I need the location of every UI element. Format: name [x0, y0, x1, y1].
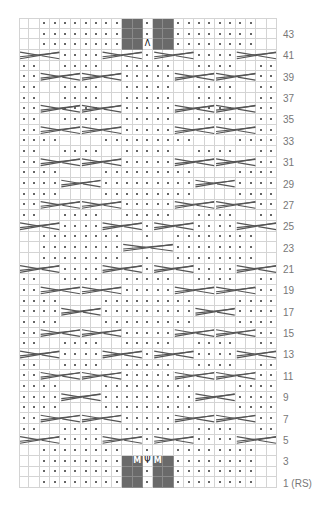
purl-dot-icon	[167, 139, 169, 141]
knit-cell	[60, 71, 70, 82]
knit-cell	[246, 146, 256, 157]
knit-cell	[40, 125, 50, 136]
purl-dot-icon	[64, 107, 66, 109]
purl-cell	[71, 82, 81, 93]
purl-cell	[133, 392, 143, 403]
purl-cell	[184, 392, 194, 403]
purl-dot-icon	[54, 193, 56, 195]
purl-dot-icon	[198, 86, 200, 88]
purl-cell	[19, 157, 29, 168]
knit-cell	[50, 328, 60, 339]
purl-cell	[91, 103, 101, 114]
purl-dot-icon	[116, 321, 118, 323]
purl-dot-icon	[270, 374, 272, 376]
knit-cell	[225, 296, 235, 307]
purl-dot-icon	[177, 22, 179, 24]
purl-cell	[215, 435, 225, 446]
knit-cell	[40, 200, 50, 211]
knit-cell	[19, 456, 29, 467]
purl-dot-icon	[105, 470, 107, 472]
knit-cell	[267, 50, 277, 61]
purl-dot-icon	[54, 257, 56, 259]
knit-cell	[184, 71, 194, 82]
purl-dot-icon	[167, 150, 169, 152]
purl-cell	[133, 306, 143, 317]
purl-cell	[19, 71, 29, 82]
knit-cell	[194, 189, 204, 200]
knit-cell	[246, 328, 256, 339]
purl-dot-icon	[85, 257, 87, 259]
purl-dot-icon	[23, 129, 25, 131]
purl-dot-icon	[126, 342, 128, 344]
purl-cell	[40, 296, 50, 307]
purl-dot-icon	[229, 225, 231, 227]
purl-cell	[143, 435, 153, 446]
purl-dot-icon	[146, 129, 148, 131]
purl-dot-icon	[33, 321, 35, 323]
knit-cell	[215, 403, 225, 414]
purl-cell	[143, 467, 153, 478]
knit-cell	[19, 50, 29, 61]
purl-cell	[267, 178, 277, 189]
purl-dot-icon	[74, 225, 76, 227]
purl-cell	[143, 306, 153, 317]
knit-cell	[205, 71, 215, 82]
knit-cell	[225, 392, 235, 403]
purl-dot-icon	[208, 268, 210, 270]
purl-dot-icon	[95, 342, 97, 344]
purl-cell	[122, 403, 132, 414]
purl-cell	[50, 178, 60, 189]
purl-dot-icon	[64, 97, 66, 99]
purl-cell	[267, 71, 277, 82]
decrease-symbol: Λ	[143, 39, 152, 49]
purl-cell	[174, 178, 184, 189]
purl-dot-icon	[219, 43, 221, 45]
purl-dot-icon	[208, 33, 210, 35]
purl-cell	[184, 253, 194, 264]
knit-cell	[40, 61, 50, 72]
row-label: 27	[283, 199, 294, 210]
purl-cell	[174, 381, 184, 392]
knit-cell	[225, 125, 235, 136]
knit-cell	[236, 264, 246, 275]
purl-cell	[112, 317, 122, 328]
knit-cell	[174, 435, 184, 446]
purl-cell	[50, 381, 60, 392]
purl-cell	[256, 71, 266, 82]
knit-cell	[19, 445, 29, 456]
purl-dot-icon	[157, 396, 159, 398]
knit-cell	[60, 285, 70, 296]
purl-dot-icon	[177, 235, 179, 237]
purl-cell	[40, 178, 50, 189]
purl-dot-icon	[208, 65, 210, 67]
purl-cell	[163, 338, 173, 349]
knit-cell	[102, 50, 112, 61]
purl-dot-icon	[188, 481, 190, 483]
purl-dot-icon	[146, 22, 148, 24]
purl-cell	[246, 477, 256, 488]
purl-cell	[91, 232, 101, 243]
purl-cell	[133, 317, 143, 328]
knit-cell	[122, 253, 132, 264]
purl-cell	[91, 221, 101, 232]
knit-cell	[60, 306, 70, 317]
purl-cell	[81, 242, 91, 253]
purl-dot-icon	[250, 449, 252, 451]
purl-cell	[91, 18, 101, 29]
purl-cell	[133, 338, 143, 349]
purl-dot-icon	[157, 150, 159, 152]
purl-dot-icon	[198, 214, 200, 216]
purl-cell	[81, 210, 91, 221]
purl-dot-icon	[167, 107, 169, 109]
knit-cell	[225, 189, 235, 200]
knit-cell	[50, 157, 60, 168]
purl-cell	[236, 445, 246, 456]
purl-cell	[133, 114, 143, 125]
purl-dot-icon	[74, 22, 76, 24]
knit-cell	[133, 435, 143, 446]
purl-cell	[174, 242, 184, 253]
purl-dot-icon	[64, 438, 66, 440]
knit-cell	[60, 125, 70, 136]
purl-cell	[205, 82, 215, 93]
purl-cell	[81, 103, 91, 114]
